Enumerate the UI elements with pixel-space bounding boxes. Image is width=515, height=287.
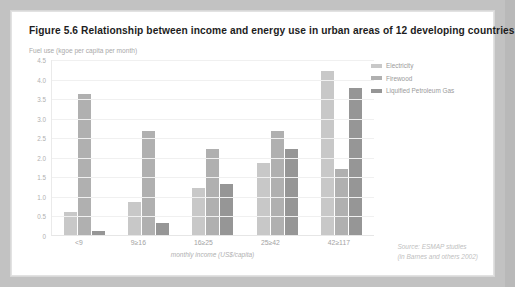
gridline — [52, 138, 374, 139]
bar-group — [257, 60, 298, 235]
bar — [321, 71, 334, 235]
gridline — [52, 216, 374, 217]
bar — [92, 231, 105, 235]
bar — [220, 184, 233, 235]
x-axis-tick: 9≥16 — [131, 239, 146, 246]
bar — [128, 202, 141, 235]
x-axis-tick: <9 — [75, 239, 83, 246]
y-axis-tick: 2.0 — [37, 154, 46, 161]
bar — [335, 169, 348, 235]
legend-item[interactable]: Electricity — [371, 62, 469, 69]
source-line-1: Source: ESMAP studies — [397, 242, 478, 251]
gridline — [52, 177, 374, 178]
bar — [257, 163, 270, 235]
y-axis-tick: 2.5 — [37, 135, 46, 142]
page-title: Figure 5.6 Relationship between income a… — [29, 25, 515, 36]
plot-area: 4.54.03.53.02.52.01.51.00.50 <99≥1616≥25… — [29, 60, 477, 260]
gridline — [52, 80, 374, 81]
bar — [349, 88, 362, 235]
gridline — [52, 119, 374, 120]
bar — [285, 149, 298, 235]
x-axis-tick: 16≥25 — [194, 239, 213, 246]
legend-label: Liquified Petroleum Gas — [386, 87, 454, 94]
bar-group — [192, 60, 233, 235]
bar-group — [128, 60, 169, 235]
y-axis-tick: 4.5 — [37, 57, 46, 64]
bar-group — [321, 60, 362, 235]
legend-swatch-icon — [371, 89, 382, 93]
chart-grid — [51, 60, 374, 236]
legend-swatch-icon — [371, 76, 382, 80]
y-axis-tick: 3.0 — [37, 115, 46, 122]
legend-item[interactable]: Liquified Petroleum Gas — [371, 87, 469, 94]
y-axis-tick: 1.5 — [37, 174, 46, 181]
legend-label: Firewood — [386, 75, 412, 82]
y-axis-tick: 3.5 — [37, 96, 46, 103]
y-axis-tick: 1.0 — [37, 193, 46, 200]
gridline — [52, 158, 374, 159]
bar — [206, 149, 219, 235]
gridline — [52, 99, 374, 100]
chart-legend: ElectricityFirewoodLiquified Petroleum G… — [371, 62, 469, 100]
bar — [78, 94, 91, 235]
y-axis-tick: 4.0 — [37, 76, 46, 83]
y-axis-tick: 0 — [42, 233, 46, 240]
y-axis-tick: 0.5 — [37, 213, 46, 220]
legend-label: Electricity — [386, 62, 413, 69]
y-axis-title: Fuel use (kgoe per capita per month) — [29, 47, 137, 54]
legend-swatch-icon — [371, 64, 382, 68]
figure-card: Figure 5.6 Relationship between income a… — [11, 11, 494, 276]
x-axis-tick: 25≥42 — [261, 239, 280, 246]
legend-item[interactable]: Firewood — [371, 75, 469, 82]
gridline — [52, 197, 374, 198]
bar — [192, 188, 205, 235]
x-axis-tick: 42≥117 — [328, 239, 350, 246]
x-axis-title: monthly income (US$/capita) — [51, 251, 374, 258]
bar — [156, 223, 169, 235]
source-line-2: (in Barnes and others 2002) — [397, 252, 478, 261]
gridline — [52, 60, 374, 61]
y-axis-tick-labels: 4.54.03.53.02.52.01.51.00.50 — [29, 60, 49, 236]
bar — [271, 131, 284, 235]
x-axis-tick-labels: <99≥1616≥2525≥4242≥117 — [51, 239, 374, 246]
bar — [142, 131, 155, 235]
bar-series-container — [52, 60, 374, 235]
source-note: Source: ESMAP studies (in Barnes and oth… — [397, 242, 478, 261]
bar-group — [64, 60, 105, 235]
bar — [64, 212, 77, 235]
